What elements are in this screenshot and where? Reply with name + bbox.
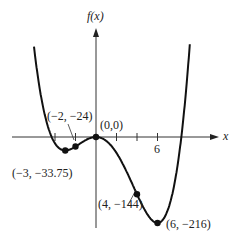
x-axis-arrow-icon [210, 134, 219, 140]
point-label-0-0: (0,0) [100, 119, 123, 131]
data-point [154, 220, 160, 226]
y-axis-label: f(x) [87, 10, 104, 22]
point-label-6: (6, −216) [166, 218, 211, 230]
point-label-4: (4, −144) [98, 198, 143, 210]
data-point [72, 143, 78, 149]
x-tick-label-6: 6 [154, 143, 160, 155]
chart-figure: f(x) x 6 (0,0) (−2, −24) (−3, −33.75) (4… [0, 0, 238, 242]
y-axis-arrow-icon [93, 28, 99, 37]
data-point [93, 134, 99, 140]
point-label-m3: (−3, −33.75) [12, 167, 73, 179]
point-label-m2: (−2, −24) [47, 110, 93, 122]
data-point [62, 147, 68, 153]
x-axis-label: x [223, 130, 228, 142]
leader-line-m2 [68, 124, 74, 140]
y-axis-label-text: f(x) [87, 9, 104, 23]
